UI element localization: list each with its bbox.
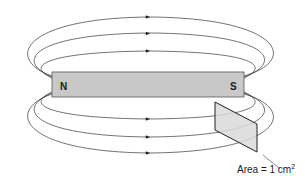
south-pole-label: S (230, 81, 237, 92)
bar-magnet: N S (52, 72, 244, 97)
field-lines-above (28, 17, 274, 78)
area-label: Area = 1 cm2 (237, 163, 295, 175)
north-pole-label: N (60, 81, 67, 92)
area-plane (215, 102, 280, 169)
magnetic-field-diagram: N S Area = 1 cm2 (0, 0, 305, 176)
